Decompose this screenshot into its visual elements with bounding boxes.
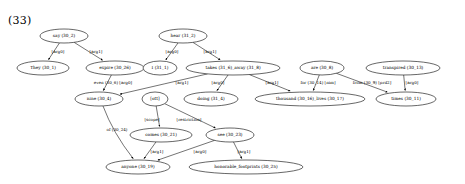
graph-node-i[interactable]: I (31_1) [143,61,177,75]
edge-label: for (30_14) [nim] [300,80,336,85]
graph-node-doing[interactable]: doing (31_4) [184,92,238,106]
graph-edge [165,104,216,128]
edge-label: [scope] [144,117,159,122]
edge-label: [arg1] [151,149,164,154]
graph-node-ott[interactable]: [ott] [142,92,168,106]
semantic-dependency-graph-figure: (33) [arg0][arg1][arg0][arg1]even (30_6)… [0,0,465,184]
graph-node-say[interactable]: say (30_2) [40,29,88,43]
edge-label: [arg1] [238,149,251,154]
edge-label: [arg1] [266,80,279,85]
graph-node-nine[interactable]: nine (30_4) [75,92,123,106]
graph-node-times[interactable]: times (30_11) [376,92,436,106]
graph-canvas: [arg0][arg1][arg0][arg1]even (30_6) [arg… [0,0,465,184]
graph-node-are[interactable]: are (30_8) [300,61,344,75]
graph-node-transpired[interactable]: transpired (30_13) [366,61,440,75]
graph-node-thousand[interactable]: thousand (30_16)_lives (30_17) [255,92,365,106]
graph-node-footprints[interactable]: honorable_footprints (30_25) [189,160,303,174]
edge-label: [arg1] [204,49,217,54]
edge-label: [arg1] [176,80,189,85]
edge-label: [arg0] [212,80,225,85]
graph-node-see[interactable]: see (30_23) [206,128,254,142]
edge-label: [arg0] [406,80,419,85]
edge-label: [arg0] [166,49,179,54]
graph-node-takes_away[interactable]: takes (31_6)_away (31_8) [186,61,280,75]
graph-node-they[interactable]: They (30_1) [17,61,69,75]
edge-label: [restriction] [177,117,202,122]
graph-node-hear[interactable]: hear (31_2) [159,29,207,43]
edge-label: even (30_6) [arg0] [94,80,133,85]
edge-label: [arg1] [90,49,103,54]
graph-node-comes[interactable]: comes (30_21) [130,128,192,142]
node-layer: say (30_2)hear (31_2)They (30_1)expire (… [17,29,440,174]
graph-node-expire[interactable]: expire (30_26) [86,61,144,75]
graph-node-anyone[interactable]: anyone (30_19) [106,160,170,174]
graph-edge [103,106,133,159]
node-label: [ott] [150,96,160,101]
edge-label: [arg0] [52,49,65,54]
edge-label: from (30_9) [prd2] [353,80,392,85]
edge-label: of (30_24) [107,127,128,132]
graph-edge [120,74,208,94]
edge-label: [arg0] [194,149,207,154]
